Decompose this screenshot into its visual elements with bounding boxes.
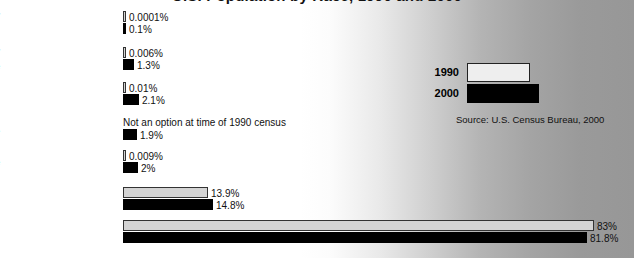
bar-1990[interactable]: 0.01% [123, 82, 126, 93]
chart-title: U.S. Population by Race, 1990 and 2000 [0, 0, 634, 4]
bar-value-2000: 1.3% [137, 59, 160, 70]
race-population-bar-chart: U.S. Population by Race, 1990 and 2000 N… [0, 0, 634, 258]
bar-group: Not an option at time of 1990 census 1.9… [123, 117, 137, 140]
bar-2000[interactable]: 2% [123, 162, 138, 173]
bar-value-2000: 2% [141, 162, 155, 173]
bar-value-2000: 0.1% [129, 23, 152, 34]
bar-2000[interactable]: 1.3% [123, 59, 134, 70]
bar-1990[interactable]: 0.0001% [123, 11, 126, 22]
bar-group: 0.006% 1.3% [123, 47, 134, 70]
bar-value-1990: 0.01% [129, 82, 157, 93]
bar-value-2000: 2.1% [142, 94, 165, 105]
legend-swatch-1990 [467, 63, 530, 82]
no-data-note: Not an option at time of 1990 census [123, 117, 286, 128]
bar-group: 0.009% 2% [123, 150, 138, 173]
bar-1990[interactable]: 0.009% [123, 150, 126, 161]
bar-value-2000: 81.8% [590, 232, 618, 243]
bar-value-1990: 13.9% [211, 187, 239, 198]
legend-swatch-2000 [467, 84, 539, 103]
bar-value-2000: 14.8% [216, 199, 244, 210]
bar-group: 0.0001% 0.1% [123, 11, 126, 34]
source-note: Source: U.S. Census Bureau, 2000 [456, 114, 604, 125]
bar-value-1990: 0.006% [129, 47, 163, 58]
bar-value-1990: 0.0001% [129, 11, 168, 22]
no-data-note-row: Not an option at time of 1990 census [123, 117, 137, 129]
bar-2000[interactable]: 81.8% [123, 232, 587, 243]
bar-1990[interactable]: 83% [123, 220, 594, 231]
bar-value-2000: 1.9% [140, 129, 163, 140]
legend-label-2000: 2000 [425, 83, 459, 104]
legend-label-1990: 1990 [425, 62, 459, 83]
bar-group: 0.01% 2.1% [123, 82, 139, 105]
bar-group: 83% 81.8% [123, 220, 594, 243]
bar-2000[interactable]: 1.9% [123, 129, 137, 140]
bar-1990[interactable]: 0.006% [123, 47, 126, 58]
bar-group: 13.9% 14.8% [123, 187, 213, 210]
bar-2000[interactable]: 2.1% [123, 94, 139, 105]
bar-2000[interactable]: 0.1% [123, 23, 126, 34]
bar-1990[interactable]: 13.9% [123, 187, 208, 198]
bar-value-1990: 0.009% [129, 150, 163, 161]
bar-2000[interactable]: 14.8% [123, 199, 213, 210]
bar-value-1990: 83% [597, 220, 617, 231]
